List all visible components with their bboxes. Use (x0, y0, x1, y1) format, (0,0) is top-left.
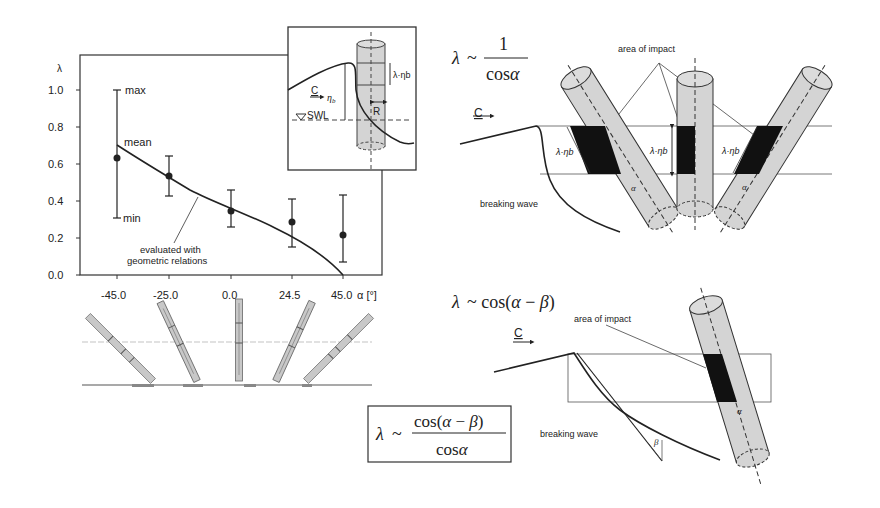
breaking-wave-label: breaking wave (540, 429, 598, 439)
beta-label: β (653, 437, 659, 447)
pile-plus-24-5 (273, 300, 315, 382)
alpha-left: α (631, 183, 636, 193)
lambda-eta-b-left: λ·ηb (555, 147, 573, 157)
y-tick-2: 0.4 (48, 195, 63, 207)
formula-tilde: ~ (467, 48, 477, 68)
curve-label-line1: evaluated with (140, 244, 201, 255)
formula-lambda: λ (451, 292, 460, 312)
y-axis: 0.0 0.2 0.4 0.6 0.8 1.0 (48, 84, 80, 281)
x-tick-0: -45.0 (101, 289, 126, 301)
annotation-max: max (125, 84, 146, 96)
impact-area-center (677, 126, 695, 174)
breaking-wave-label: breaking wave (480, 199, 538, 209)
y-tick-0: 0.0 (48, 269, 63, 281)
pile-minus-45 (85, 313, 155, 383)
data-point (289, 219, 296, 226)
y-tick-4: 0.8 (48, 121, 63, 133)
x-tick-4: 45.0 (331, 289, 352, 301)
pile-left-tilted (554, 56, 689, 244)
pile-minus-25 (157, 301, 200, 383)
celerity-label: C (311, 85, 318, 96)
pile-plus-45 (304, 313, 374, 383)
y-tick-1: 0.2 (48, 232, 63, 244)
alpha-right: α (742, 182, 747, 192)
x-tick-1: -25.0 (153, 289, 178, 301)
celerity-label: C (514, 326, 523, 340)
top-right-diagram: λ ~ 1 cosα area of impact C breaking wav… (451, 34, 839, 244)
annotation-mean: mean (124, 136, 152, 148)
lambda-eta-b-right: λ·ηb (721, 146, 739, 156)
y-tick-5: 1.0 (48, 84, 63, 96)
figure-canvas: λ 0.0 0.2 0.4 0.6 0.8 1.0 -45.0 -25.0 0.… (0, 0, 880, 508)
pile-zero (236, 299, 243, 381)
formula-bottom: ~ cos(α − β) (467, 292, 555, 313)
inset-pile-diagram: SWL ηb λ·ηb R C (288, 27, 416, 170)
formula-lambda: λ (451, 48, 460, 68)
alpha-label: α (737, 406, 742, 416)
lambda-eta-b-label: λ·ηb (393, 70, 411, 80)
celerity-label: C (474, 106, 483, 120)
formula-numerator: 1 (499, 34, 508, 54)
x-tick-2: 0.0 (222, 289, 237, 301)
x-axis-label: α [°] (357, 289, 377, 301)
formula-numerator: cos(α − β) (414, 412, 484, 431)
swl-label: SWL (307, 110, 329, 121)
formula-denominator: cosα (436, 440, 469, 459)
x-tick-3: 24.5 (279, 289, 300, 301)
y-axis-label: λ (57, 63, 62, 74)
lambda-eta-b-center: λ·ηb (649, 146, 667, 156)
y-tick-3: 0.6 (48, 158, 63, 170)
formula-denominator: cosα (486, 64, 520, 84)
data-point (114, 155, 121, 162)
curve-leader-line (174, 197, 198, 243)
boxed-formula: λ ~ cos(α − β) cosα (368, 406, 511, 462)
curve-label-line2: geometric relations (127, 255, 208, 266)
annotation-min: min (123, 212, 141, 224)
area-of-impact-label: area of impact (618, 44, 676, 54)
formula-lambda: λ (375, 424, 384, 444)
breaking-wave-profile (494, 353, 720, 460)
inset-frame (288, 27, 416, 170)
area-of-impact-label: area of impact (574, 314, 632, 324)
formula-tilde: ~ (392, 424, 402, 444)
x-axis: -45.0 -25.0 0.0 24.5 45.0 α [°] (101, 275, 377, 301)
pile-inclinations-row (82, 299, 374, 387)
radius-label: R (373, 106, 380, 117)
data-point (340, 232, 347, 239)
